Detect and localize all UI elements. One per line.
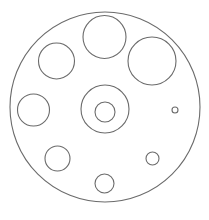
plate-diagram [0,0,209,220]
